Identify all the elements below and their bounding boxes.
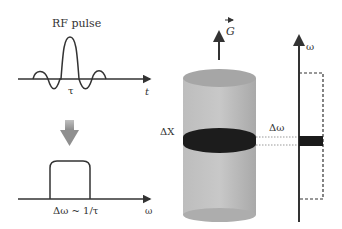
slice-band: [183, 128, 256, 153]
slice-thickness-label: ΔX: [160, 126, 175, 137]
frequency-vertical-axis: [299, 36, 323, 222]
cylinder-top: [183, 69, 256, 87]
freq-band-label: Δω: [269, 122, 284, 133]
gradient-label: G: [226, 25, 235, 38]
spectrum-panel: [18, 161, 150, 199]
projection-lines: [256, 137, 300, 145]
selected-band: [299, 136, 323, 146]
rect-spectrum: [50, 161, 90, 199]
rf-pulse-panel: [18, 37, 150, 89]
tau-label: τ: [68, 85, 74, 96]
vertical-omega-label: ω: [306, 41, 314, 52]
rf-sinc-waveform: [33, 37, 106, 89]
sample-cylinder: [183, 69, 256, 222]
omega-axis-label: ω: [145, 206, 152, 216]
bandwidth-label: Δω ~ 1/τ: [53, 205, 99, 216]
time-axis-label: t: [145, 86, 150, 97]
transform-arrow-icon: [60, 120, 79, 146]
mri-slice-selection-diagram: RF pulse τ t Δω ~ 1/τ ω G ΔX Δω ω: [0, 0, 342, 229]
rf-pulse-title: RF pulse: [52, 17, 101, 30]
